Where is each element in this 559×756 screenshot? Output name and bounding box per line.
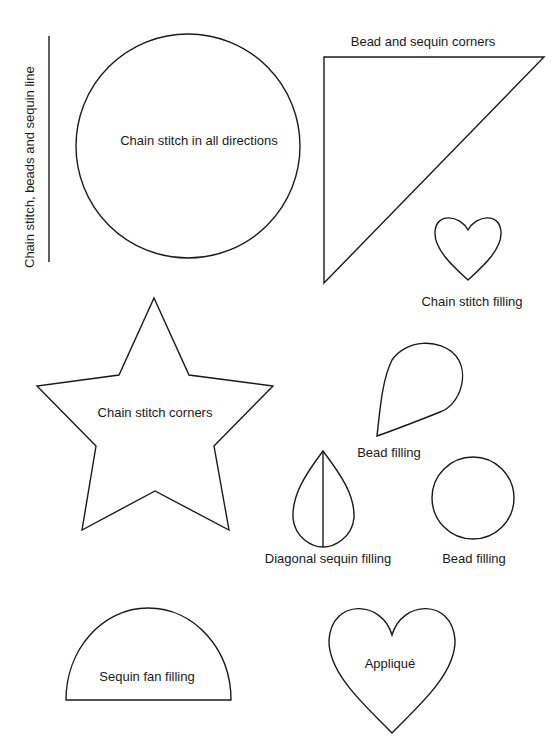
semicircle-shape bbox=[66, 608, 231, 700]
label-line: Chain stitch, beads and sequin line bbox=[22, 66, 37, 268]
triangle-shape bbox=[324, 57, 544, 283]
label-small-heart: Chain stitch filling bbox=[421, 294, 522, 309]
label-circle: Chain stitch in all directions bbox=[120, 133, 278, 148]
label-small-circle: Bead filling bbox=[442, 551, 506, 566]
teardrop-shape bbox=[377, 343, 463, 436]
label-teardrop: Bead filling bbox=[357, 445, 421, 460]
label-semicircle: Sequin fan filling bbox=[99, 669, 194, 684]
label-large-heart: Appliqué bbox=[365, 656, 416, 671]
small-heart-shape bbox=[435, 218, 501, 280]
label-split-teardrop: Diagonal sequin filling bbox=[265, 551, 391, 566]
label-triangle: Bead and sequin corners bbox=[351, 34, 496, 49]
label-star: Chain stitch corners bbox=[98, 405, 213, 420]
embroidery-pattern-canvas bbox=[0, 0, 559, 756]
small-circle-shape bbox=[432, 457, 514, 539]
